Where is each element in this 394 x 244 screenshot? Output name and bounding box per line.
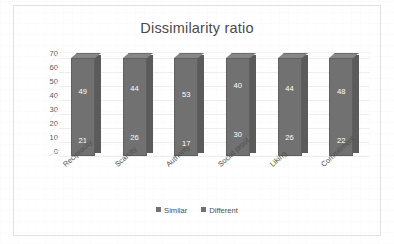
y-axis-tick: 30 — [28, 106, 58, 114]
data-label-different: 40 — [226, 81, 250, 90]
y-axis-tick: 60 — [28, 64, 58, 72]
legend-label: Different — [209, 206, 238, 215]
bar-group[interactable]: 2644 — [123, 58, 153, 156]
gridline — [59, 114, 369, 115]
legend-swatch-icon — [201, 207, 206, 212]
bar-group[interactable]: 1753 — [174, 58, 204, 156]
legend-label: Similar — [164, 206, 187, 215]
gridline — [59, 72, 369, 73]
data-label-different: 44 — [123, 84, 147, 93]
chart-container: Dissimilarity ratio 706050403020100 2149… — [13, 5, 381, 236]
y-axis-tick: 0 — [28, 148, 58, 156]
data-label-similar: 26 — [123, 133, 147, 142]
data-label-different: 44 — [278, 84, 302, 93]
y-axis-tick: 20 — [28, 120, 58, 128]
bar-group[interactable]: 2644 — [278, 58, 308, 156]
legend-item-similar[interactable]: Similar — [156, 205, 187, 215]
data-label-different: 53 — [174, 90, 198, 99]
gridline — [59, 86, 369, 87]
gridline — [59, 58, 369, 59]
data-label-different: 48 — [329, 87, 353, 96]
data-label-different: 49 — [71, 87, 95, 96]
chart-title: Dissimilarity ratio — [14, 20, 380, 36]
plot-area: 2149Reciprocity2644Scarcity1753Authority… — [59, 58, 369, 156]
legend-item-different[interactable]: Different — [201, 205, 238, 215]
gridline — [59, 128, 369, 129]
bar-side-face — [95, 55, 101, 153]
data-label-similar: 26 — [278, 133, 302, 142]
chart-legend: SimilarDifferent — [0, 205, 394, 215]
bar-side-face — [250, 55, 256, 153]
y-axis-tick: 40 — [28, 92, 58, 100]
y-axis-tick: 10 — [28, 134, 58, 142]
stacked-bar[interactable]: 2644 — [123, 58, 147, 156]
gridline — [59, 100, 369, 101]
y-axis-tick: 70 — [28, 50, 58, 58]
bar-side-face — [302, 55, 308, 153]
bar-side-face — [198, 55, 204, 153]
gridline — [59, 142, 369, 143]
stacked-bar[interactable]: 2644 — [278, 58, 302, 156]
legend-swatch-icon — [156, 207, 161, 212]
y-axis-tick-labels: 706050403020100 — [28, 54, 58, 158]
x-axis-category-label: Liking — [268, 149, 288, 169]
y-axis-tick: 50 — [28, 78, 58, 86]
gridline — [59, 156, 369, 157]
bar-side-face — [147, 55, 153, 153]
stacked-bar[interactable]: 1753 — [174, 58, 198, 156]
